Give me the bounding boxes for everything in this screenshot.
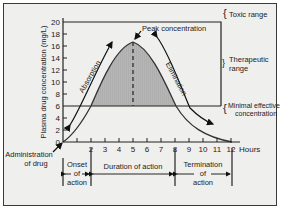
y-axis-label: Plasma drug concentration (mg/L) [39,25,48,138]
svg-text:6: 6 [145,145,150,154]
svg-text:3: 3 [103,145,108,154]
svg-text:4: 4 [117,145,122,154]
mec-bracket: { [223,102,227,114]
svg-text:12: 12 [51,66,60,75]
termination-label-1: Termination [184,160,223,169]
svg-text:20: 20 [51,18,60,27]
therapeutic-bracket: } [222,58,225,68]
svg-text:0: 0 [56,138,61,147]
svg-text:5: 5 [131,145,136,154]
therapeutic-range-label-2: range [229,64,248,73]
svg-text:14: 14 [51,54,60,63]
svg-text:6: 6 [56,102,61,111]
svg-text:12: 12 [227,145,236,154]
duration-label: Duration of action [104,162,163,171]
elimination-arrow [157,37,213,124]
y-tick-labels: 0 2 4 6 8 10 12 14 16 18 20 [51,18,60,147]
svg-text:7: 7 [159,145,164,154]
administration-label-line1: Administration [5,150,53,159]
mec-label-1: Minimal effective [228,102,280,109]
onset-label-3: action [67,178,87,187]
svg-text:9: 9 [187,145,192,154]
onset-label-2: of [74,169,81,178]
svg-text:10: 10 [199,145,208,154]
x-tick-labels: 2 3 4 5 6 7 8 9 10 11 12 [89,145,236,154]
phase-labels: Onset of action Duration of action Termi… [67,160,222,187]
toxic-range-label: Toxic range [229,10,267,19]
svg-text:18: 18 [51,30,60,39]
peak-concentration-label: Peak concentration [142,24,206,33]
therapeutic-range-label-1: Therapeutic [229,55,269,64]
svg-text:16: 16 [51,42,60,51]
mec-label-2: concentration [235,110,277,117]
peak-pointer-arrow [135,31,141,39]
toxic-bracket: { [223,7,227,19]
svg-text:8: 8 [56,90,61,99]
svg-text:2: 2 [56,126,61,135]
administration-label-line2: of drug [24,159,47,168]
termination-label-2: of [200,169,207,178]
svg-text:10: 10 [51,78,60,87]
x-axis-label: Hours [239,145,260,154]
svg-text:4: 4 [56,114,61,123]
onset-label-1: Onset [67,160,88,169]
termination-label-3: action [193,178,213,187]
pharmacokinetic-chart: 0 2 4 6 8 10 12 14 16 18 20 2 3 4 5 6 7 … [0,0,282,211]
svg-text:11: 11 [213,145,222,154]
